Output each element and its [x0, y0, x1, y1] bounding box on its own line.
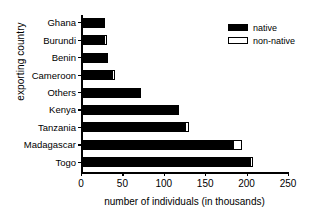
y-axis-tick-label: Togo	[55, 157, 76, 168]
x-axis-tick	[164, 172, 165, 176]
stacked-bar	[82, 35, 107, 45]
bar-segment-non-native	[233, 140, 242, 150]
legend-swatch-non-native-icon	[228, 37, 248, 44]
y-axis-tick	[78, 40, 81, 41]
y-axis-tick	[78, 22, 81, 23]
bar-row: Togo	[81, 155, 288, 172]
bar-row: Madagascar	[81, 137, 288, 154]
bar-segment-non-native	[185, 122, 189, 132]
y-axis-tick-label: Madagascar	[24, 139, 76, 150]
x-axis-tick	[247, 172, 248, 176]
bar-segment-native	[82, 18, 105, 28]
x-axis-title: number of individuals (in thousands)	[81, 196, 288, 207]
y-axis-tick	[78, 127, 81, 128]
y-axis-tick-label: Benin	[52, 52, 76, 63]
stacked-bar	[82, 88, 141, 98]
bar-segment-native	[82, 70, 112, 80]
bar-segment-native	[82, 53, 108, 63]
y-axis-tick-label: Cameroon	[32, 70, 76, 81]
bar-segment-native	[82, 140, 233, 150]
x-axis-tick-label: 50	[117, 178, 128, 189]
y-axis-tick	[78, 75, 81, 76]
chart-legend: native non-native	[228, 22, 295, 48]
bar-segment-native	[82, 35, 104, 45]
x-axis-tick	[81, 172, 82, 176]
y-axis-tick	[78, 162, 81, 163]
stacked-bar	[82, 105, 179, 115]
x-axis-line	[81, 172, 288, 174]
stacked-bar	[82, 70, 115, 80]
bar-row: Benin	[81, 50, 288, 67]
bar-row: Others	[81, 85, 288, 102]
bar-chart-figure: exporting country GhanaBurundiBeninCamer…	[0, 0, 325, 220]
bar-row: Cameroon	[81, 68, 288, 85]
y-axis-tick	[78, 92, 81, 93]
y-axis-tick-label: Others	[47, 87, 76, 98]
x-axis-tick	[288, 172, 289, 176]
x-axis-tick-label: 200	[238, 178, 255, 189]
legend-label-non-native: non-native	[253, 36, 295, 46]
bar-segment-native	[82, 105, 179, 115]
stacked-bar	[82, 18, 105, 28]
bar-segment-native	[82, 157, 250, 167]
stacked-bar	[82, 122, 189, 132]
legend-swatch-native-icon	[228, 24, 248, 31]
stacked-bar	[82, 157, 253, 167]
y-axis-tick-label: Burundi	[43, 35, 76, 46]
stacked-bar	[82, 140, 242, 150]
y-axis-title: exporting country	[15, 0, 26, 127]
x-axis-tick	[205, 172, 206, 176]
bar-segment-native	[82, 122, 185, 132]
y-axis-tick-label: Tanzania	[38, 122, 76, 133]
x-axis-tick-label: 250	[280, 178, 297, 189]
x-axis-tick-label: 150	[197, 178, 214, 189]
y-axis-tick-label: Ghana	[47, 17, 76, 28]
bar-segment-non-native	[112, 70, 115, 80]
legend-label-native: native	[253, 23, 277, 33]
bar-row: Kenya	[81, 102, 288, 119]
y-axis-tick	[78, 144, 81, 145]
y-axis-tick	[78, 57, 81, 58]
stacked-bar	[82, 53, 108, 63]
bar-row: Tanzania	[81, 120, 288, 137]
legend-item-non-native: non-native	[228, 35, 295, 46]
bar-segment-native	[82, 88, 141, 98]
x-axis-tick	[122, 172, 123, 176]
bar-segment-non-native	[250, 157, 252, 167]
y-axis-tick	[78, 109, 81, 110]
y-axis-tick-label: Kenya	[49, 104, 76, 115]
bar-segment-non-native	[104, 35, 107, 45]
legend-item-native: native	[228, 22, 295, 33]
x-axis-tick-label: 0	[78, 178, 84, 189]
x-axis-tick-label: 100	[155, 178, 172, 189]
